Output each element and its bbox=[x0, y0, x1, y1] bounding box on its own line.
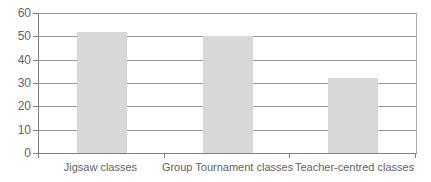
y-tick-label: 0 bbox=[0, 146, 31, 160]
x-category-label: Teacher-centred classes bbox=[293, 161, 416, 173]
x-category-label: Group Tournament classes bbox=[162, 161, 293, 173]
y-tick-label: 10 bbox=[0, 123, 31, 137]
y-tick-label: 40 bbox=[0, 53, 31, 67]
y-tick-label: 30 bbox=[0, 76, 31, 90]
y-axis-tick bbox=[33, 36, 38, 37]
x-axis-tick bbox=[38, 154, 39, 158]
bar bbox=[203, 36, 253, 153]
bar bbox=[328, 78, 378, 153]
x-axis-tick bbox=[415, 154, 416, 158]
y-tick-label: 60 bbox=[0, 6, 31, 20]
bar bbox=[77, 32, 127, 153]
bar-chart: 0102030405060 Jigsaw classesGroup Tourna… bbox=[0, 0, 431, 182]
x-category-label: Jigsaw classes bbox=[39, 161, 162, 173]
y-axis-tick bbox=[33, 130, 38, 131]
gridline bbox=[39, 13, 416, 14]
y-axis-tick bbox=[33, 106, 38, 107]
y-tick-label: 20 bbox=[0, 99, 31, 113]
y-tick-label: 50 bbox=[0, 29, 31, 43]
y-axis-tick bbox=[33, 83, 38, 84]
x-axis-tick bbox=[289, 154, 290, 158]
y-axis-tick bbox=[33, 60, 38, 61]
plot-area bbox=[38, 13, 417, 154]
x-axis-labels: Jigsaw classesGroup Tournament classesTe… bbox=[39, 161, 416, 173]
x-axis-tick bbox=[164, 154, 165, 158]
y-axis-tick bbox=[33, 13, 38, 14]
